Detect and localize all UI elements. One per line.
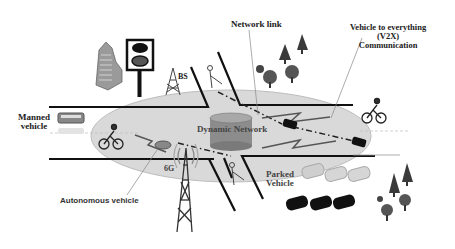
- trees-top: [256, 34, 308, 88]
- building-icon: [96, 42, 122, 90]
- label-v2x-line3: Communication: [350, 41, 426, 50]
- manned-vehicle-icon: [58, 113, 84, 134]
- label-network-link: Network link: [231, 20, 282, 29]
- label-dynamic-network: Dynamic Network: [197, 125, 267, 134]
- label-v2x: Vehicle to everything (V2X) Communicatio…: [350, 23, 426, 50]
- autonomous-vehicle-icon: [155, 141, 171, 149]
- label-autonomous-vehicle: Autonomous vehicle: [60, 197, 139, 205]
- label-parked-vehicle: Parked Vehicle: [266, 170, 294, 189]
- label-6g: 6G: [164, 165, 174, 173]
- label-manned-vehicle: Manned vehicle: [18, 113, 50, 132]
- label-bs: BS: [178, 73, 188, 81]
- v2x-network-diagram: Network link Vehicle to everything (V2X)…: [0, 0, 455, 249]
- cyclist-icon-2: [362, 99, 386, 124]
- label-parked-line2: Vehicle: [266, 179, 294, 188]
- label-manned-line2: vehicle: [18, 122, 50, 131]
- pedestrian-icon: [208, 66, 223, 89]
- trees-bottom: [377, 163, 413, 221]
- traffic-light-icon: [127, 40, 153, 97]
